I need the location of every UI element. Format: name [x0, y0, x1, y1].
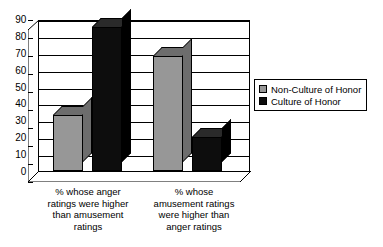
gridline — [39, 55, 249, 56]
y-axis-tick-labels: 90 80 70 60 50 40 30 20 10 0 — [0, 0, 26, 247]
y-axis-tick-mark — [28, 164, 33, 165]
y-axis-tick-mark — [28, 20, 33, 21]
y-tick-label: 0 — [0, 167, 26, 177]
category-label-2-line: anger ratings — [139, 221, 249, 233]
axis-depth-floor — [28, 171, 251, 182]
bar-front-face — [92, 27, 122, 171]
category-label-2-line: amusement ratings — [139, 198, 249, 210]
gridline — [39, 89, 249, 90]
bar-front-face — [153, 56, 183, 171]
bar-chart: 90 80 70 60 50 40 30 20 10 0 — [0, 0, 383, 247]
bar-group1-non-culture-of-honor — [53, 115, 83, 171]
bar-side-face — [183, 38, 192, 162]
y-tick-label: 60 — [0, 66, 26, 76]
category-label-1-line: than amusement — [33, 209, 143, 221]
legend-label: Culture of Honor — [271, 96, 341, 107]
legend-item-non-culture-of-honor: Non-Culture of Honor — [259, 83, 361, 95]
y-axis-tick-mark — [28, 182, 33, 183]
legend-swatch-black-icon — [259, 97, 267, 105]
bar-group1-culture-of-honor — [92, 27, 122, 171]
legend-label: Non-Culture of Honor — [271, 84, 361, 95]
y-axis-tick-mark — [28, 128, 33, 129]
bar-side-face — [122, 9, 131, 162]
category-label-2-line: were higher than — [139, 209, 249, 221]
y-tick-label: 70 — [0, 49, 26, 59]
legend-item-culture-of-honor: Culture of Honor — [259, 95, 361, 107]
bar-front-face — [53, 115, 83, 171]
category-label-1: % whose anger ratings were higher than a… — [33, 186, 143, 232]
y-axis-tick-mark — [28, 38, 33, 39]
bar-front-face — [192, 137, 222, 171]
category-label-1-line: ratings were higher — [33, 198, 143, 210]
bar-group2-culture-of-honor — [192, 137, 222, 171]
y-tick-label: 50 — [0, 83, 26, 93]
y-axis-tick-mark — [28, 92, 33, 93]
bar-side-face — [83, 97, 92, 162]
y-axis-tick-mark — [28, 110, 33, 111]
gridline — [39, 21, 249, 22]
legend-swatch-gray-icon — [259, 85, 267, 93]
y-tick-label: 90 — [0, 15, 26, 25]
y-tick-label: 10 — [0, 150, 26, 160]
y-tick-label: 80 — [0, 32, 26, 42]
chart-legend: Non-Culture of Honor Culture of Honor — [254, 79, 367, 111]
x-axis-category-labels: % whose anger ratings were higher than a… — [38, 186, 262, 244]
bar-group2-non-culture-of-honor — [153, 56, 183, 171]
gridline — [39, 38, 249, 39]
category-label-2-line: % whose — [139, 186, 249, 198]
y-tick-label: 30 — [0, 116, 26, 126]
category-label-1-line: % whose anger — [33, 186, 143, 198]
y-tick-label: 40 — [0, 99, 26, 109]
y-axis-tick-mark — [28, 74, 33, 75]
y-axis-tick-mark — [28, 146, 33, 147]
y-axis-tick-mark — [28, 56, 33, 57]
gridline — [39, 72, 249, 73]
plot-area — [38, 20, 250, 172]
y-tick-label: 20 — [0, 133, 26, 143]
category-label-1-line: ratings — [33, 221, 143, 233]
category-label-2: % whose amusement ratings were higher th… — [139, 186, 249, 232]
